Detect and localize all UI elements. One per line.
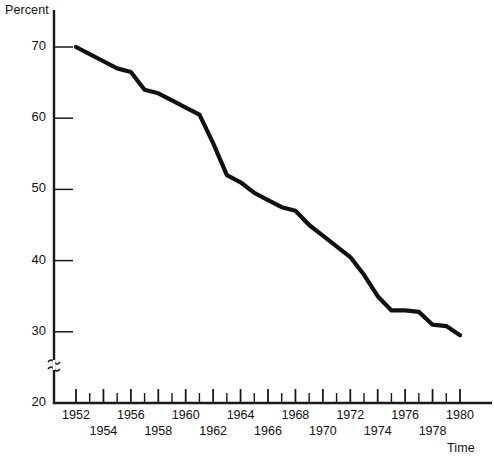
plot-area xyxy=(0,0,494,463)
x-tick-label: 1970 xyxy=(301,424,345,438)
x-tick-label: 1962 xyxy=(191,424,235,438)
x-tick-label: 1968 xyxy=(273,408,317,422)
y-tick-label: 70 xyxy=(16,38,46,53)
y-tick-marks xyxy=(54,47,73,332)
x-tick-label: 1972 xyxy=(328,408,372,422)
x-tick-label: 1952 xyxy=(54,408,98,422)
x-tick-label: 1958 xyxy=(136,424,180,438)
x-tick-label: 1974 xyxy=(356,424,400,438)
axis-break-symbol xyxy=(48,360,60,371)
y-tick-label: 40 xyxy=(16,252,46,267)
x-tick-label: 1960 xyxy=(164,408,208,422)
y-tick-label: 20 xyxy=(16,394,46,409)
line-chart: Percent Time 203040506070 19521956196019… xyxy=(0,0,494,463)
x-tick-label: 1964 xyxy=(219,408,263,422)
x-tick-label: 1954 xyxy=(81,424,125,438)
x-tick-label: 1956 xyxy=(109,408,153,422)
data-series-line xyxy=(76,47,460,335)
x-tick-label: 1966 xyxy=(246,424,290,438)
x-tick-label: 1978 xyxy=(411,424,455,438)
y-tick-label: 60 xyxy=(16,109,46,124)
x-tick-label: 1980 xyxy=(438,408,482,422)
y-tick-label: 30 xyxy=(16,323,46,338)
x-tick-marks xyxy=(76,389,460,403)
x-tick-label: 1976 xyxy=(383,408,427,422)
y-tick-label: 50 xyxy=(16,180,46,195)
